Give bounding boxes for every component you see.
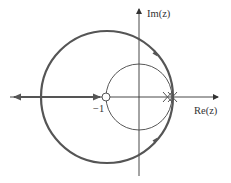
imaginary-axis-label: Im(z)	[147, 8, 171, 20]
zero-marker	[102, 93, 110, 101]
root-locus-diagram: Im(z) Re(z) −1	[0, 0, 231, 183]
zero-label: −1	[93, 103, 104, 114]
real-axis-label: Re(z)	[194, 105, 218, 117]
